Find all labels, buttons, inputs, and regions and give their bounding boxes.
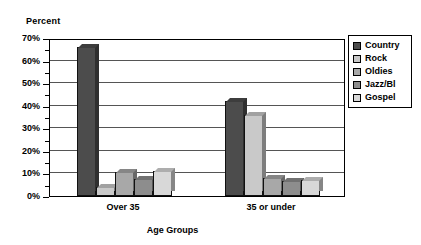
bar-top-face: [264, 175, 285, 179]
bar: [77, 47, 96, 196]
legend-item[interactable]: Jazz/Bl: [353, 79, 408, 90]
x-axis-title: Age Groups: [0, 225, 345, 235]
legend-swatch-icon: [353, 55, 361, 63]
x-axis-category-label: Over 35: [49, 202, 197, 212]
y-axis-tick-label: 70%: [6, 34, 40, 43]
bar: [134, 179, 153, 196]
bar: [153, 171, 172, 196]
legend-item-label: Gospel: [365, 93, 396, 102]
y-axis-title: Percent: [26, 16, 60, 26]
y-axis-tick-label: 40%: [6, 102, 40, 111]
y-axis-tick-label: 60%: [6, 57, 40, 66]
legend-item[interactable]: Rock: [353, 53, 408, 64]
bar: [225, 101, 244, 196]
bar-top-face: [245, 112, 266, 116]
x-axis-category-label: 35 or under: [197, 202, 345, 212]
chart-legend: CountryRockOldiesJazz/BlGospel: [348, 35, 412, 108]
bar-series-container: [50, 40, 344, 196]
y-axis-tick-mark: [43, 197, 49, 198]
bar: [244, 115, 263, 196]
legend-item[interactable]: Gospel: [353, 92, 408, 103]
bar-top-face: [302, 177, 323, 181]
bar: [96, 187, 115, 196]
y-axis-tick-label: 50%: [6, 79, 40, 88]
legend-swatch-icon: [353, 81, 361, 89]
legend-item[interactable]: Country: [353, 40, 408, 51]
legend-swatch-icon: [353, 94, 361, 102]
legend-item-label: Oldies: [365, 67, 393, 76]
bar: [282, 181, 301, 196]
legend-swatch-icon: [353, 42, 361, 50]
bar: [301, 180, 320, 196]
y-axis-tick-label: 30%: [6, 124, 40, 133]
bar: [115, 172, 134, 196]
y-axis-tick-label: 10%: [6, 169, 40, 178]
y-axis-tick-label: 20%: [6, 147, 40, 156]
bar-top-face: [78, 44, 99, 48]
plot-area: [49, 39, 345, 197]
bar-side-face: [95, 44, 99, 191]
legend-item-label: Jazz/Bl: [365, 80, 396, 89]
bar-chart: Percent 0%10%20%30%40%50%60%70% Over 353…: [0, 0, 421, 245]
bar-top-face: [226, 98, 247, 102]
legend-swatch-icon: [353, 68, 361, 76]
y-axis-tick-label: 0%: [6, 192, 40, 201]
bar: [263, 178, 282, 196]
legend-item-label: Country: [365, 41, 400, 50]
legend-item[interactable]: Oldies: [353, 66, 408, 77]
legend-item-label: Rock: [365, 54, 387, 63]
bar-top-face: [154, 168, 175, 172]
